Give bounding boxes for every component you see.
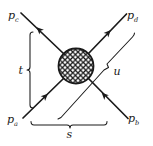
label-pd: pd <box>127 9 138 24</box>
line-pa <box>23 79 64 119</box>
label-pc: pc <box>8 9 19 24</box>
label-pa: pa <box>7 113 18 128</box>
label-u: u <box>114 65 121 78</box>
interaction-blob <box>59 49 94 84</box>
t-brace <box>27 32 33 108</box>
line-pc <box>21 13 64 54</box>
line-pb <box>89 79 129 119</box>
label-s: s <box>67 128 73 141</box>
label-pb: pb <box>128 112 139 127</box>
label-t: t <box>19 64 24 77</box>
scattering-diagram: pc pd pa pb t s u <box>0 0 153 146</box>
